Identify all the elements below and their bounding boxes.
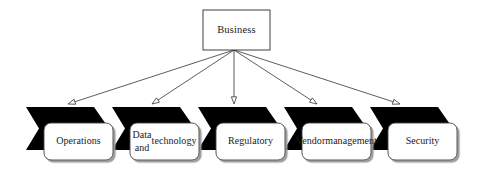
connector-line-vendor-management [234, 50, 312, 100]
diagram-canvas: OperationsData andtechnologyRegulatoryVe… [0, 0, 482, 174]
arrowhead-regulatory [231, 97, 236, 104]
connector-line-data-and-technology [157, 50, 234, 100]
arrowhead-security [392, 99, 400, 104]
connector-line-security [234, 50, 394, 102]
arrowhead-data-and-technology [152, 98, 159, 104]
arrowhead-operations [68, 99, 76, 104]
leaf-label-data-and-technology: Data andtechnology [130, 123, 199, 160]
connector-group [74, 50, 394, 102]
leaf-label-regulatory: Regulatory [216, 123, 285, 160]
root-node-label: Business [203, 10, 270, 50]
leaf-label-operations: Operations [44, 123, 113, 160]
leaf-label-security: Security [388, 123, 457, 160]
arrowhead-vendor-management [310, 98, 317, 104]
leaf-label-vendor-management: Vendormanagement [302, 123, 371, 160]
connector-line-operations [74, 50, 234, 102]
arrowhead-group [68, 97, 400, 104]
